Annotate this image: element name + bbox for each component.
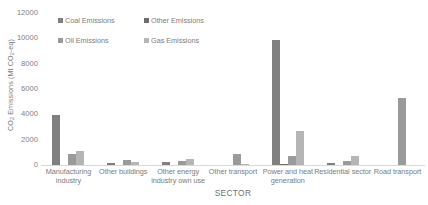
bar-group-inner — [260, 13, 315, 165]
x-tick-label: Other transport — [202, 167, 265, 176]
bar[interactable] — [233, 154, 241, 165]
legend-item[interactable]: Other Emissions — [144, 16, 204, 25]
x-tick-label: Residential sector — [311, 167, 374, 176]
y-axis-ticks: 020004000600080001000012000 — [0, 0, 38, 205]
legend-label: Coal Emissions — [65, 16, 115, 25]
legend-item[interactable]: Gas Emissions — [144, 36, 199, 45]
legend-label: Gas Emissions — [151, 36, 199, 45]
legend-swatch-icon — [144, 18, 149, 23]
x-axis-line — [41, 165, 425, 166]
x-tick-label: Other energy industry own use — [147, 167, 210, 185]
x-axis-title: SECTOR — [41, 188, 425, 198]
chart-legend: Coal EmissionsOther EmissionsOil Emissio… — [58, 16, 228, 50]
y-tick-label: 0 — [0, 161, 38, 169]
y-tick-label: 10000 — [0, 34, 38, 42]
legend-swatch-icon — [58, 38, 63, 43]
x-tick-label: Power and heat generation — [256, 167, 319, 185]
legend-item[interactable]: Coal Emissions — [58, 16, 115, 25]
x-tick-label: Other buildings — [92, 167, 155, 176]
bar[interactable] — [296, 131, 304, 165]
y-tick-label: 6000 — [0, 85, 38, 93]
legend-swatch-icon — [144, 38, 149, 43]
bar-group — [260, 13, 315, 165]
x-tick-label: Road transport — [366, 167, 428, 176]
x-tick-label: Manufacturing industry — [37, 167, 100, 185]
legend-label: Other Emissions — [151, 16, 204, 25]
bar-chart-figure: CO2 Emissions (Mt CO2-eq) 02000400060008… — [0, 0, 428, 205]
bar[interactable] — [68, 154, 76, 165]
y-tick-label: 2000 — [0, 136, 38, 144]
bar-group-inner — [370, 13, 425, 165]
y-tick-label: 12000 — [0, 9, 38, 17]
bar-group-inner — [315, 13, 370, 165]
y-tick-label: 4000 — [0, 110, 38, 118]
bar[interactable] — [351, 156, 359, 165]
bar[interactable] — [76, 151, 84, 165]
bar-group — [370, 13, 425, 165]
y-tick-label: 8000 — [0, 60, 38, 68]
bar[interactable] — [398, 98, 406, 165]
legend-label: Oil Emissions — [65, 36, 109, 45]
bar[interactable] — [52, 115, 60, 165]
bar[interactable] — [288, 156, 296, 165]
legend-item[interactable]: Oil Emissions — [58, 36, 109, 45]
legend-swatch-icon — [58, 18, 63, 23]
bar-group — [315, 13, 370, 165]
bar[interactable] — [272, 40, 280, 165]
